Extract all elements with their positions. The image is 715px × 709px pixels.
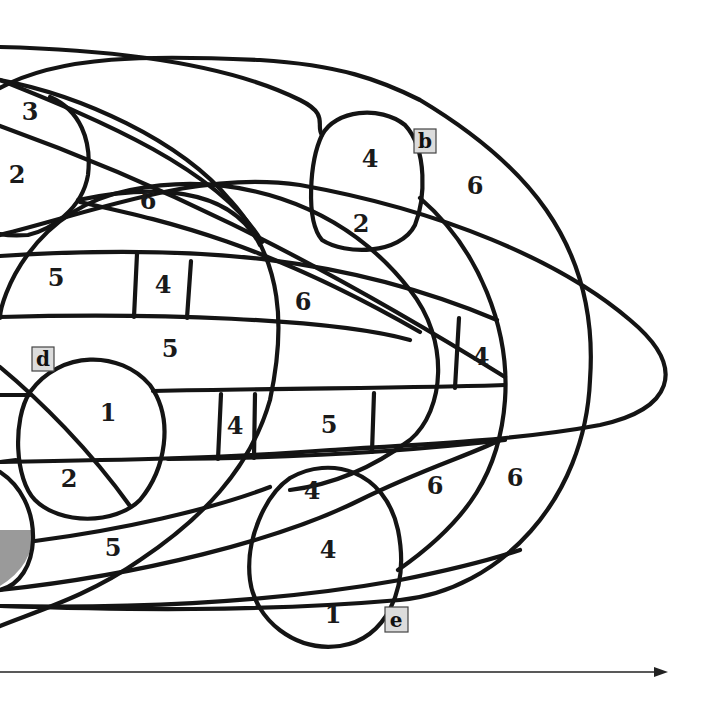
tag-label: d (36, 347, 50, 371)
region-label: 2 (353, 209, 370, 238)
region-label: 1 (100, 398, 117, 427)
region-label: 5 (321, 410, 338, 439)
region-label: 5 (162, 334, 179, 363)
divider-band-4b (254, 394, 255, 458)
region-label: 6 (507, 463, 524, 492)
region-label: 6 (295, 287, 312, 316)
region-label: 6 (427, 471, 444, 500)
region-label: 4 (362, 144, 379, 173)
line-6-inner (78, 192, 260, 245)
divider-5-4-a (134, 254, 137, 317)
region-diagram: 3 2 6 4 2 6 5 4 6 5 4 1 4 5 2 4 6 6 5 4 … (0, 0, 715, 709)
divider-5-4-b (187, 261, 191, 318)
region-label: 4 (304, 476, 321, 505)
region-label: 4 (227, 411, 244, 440)
divider-band-4a (218, 394, 221, 459)
region-label: 6 (140, 186, 157, 215)
line-d-left (0, 460, 16, 462)
tag-b: b (414, 129, 436, 153)
region-label: 2 (61, 464, 78, 493)
region-label: 1 (325, 600, 342, 629)
tag-e: e (385, 607, 408, 632)
region-label: 6 (467, 171, 484, 200)
region-label: 5 (48, 263, 65, 292)
divider-band-5 (372, 393, 374, 452)
region-label: 5 (105, 533, 122, 562)
line-band-top (0, 385, 505, 395)
tag-label: b (418, 129, 432, 153)
region-label: 4 (155, 270, 172, 299)
region-label: 3 (22, 97, 39, 126)
line-5-upper (35, 487, 270, 541)
arrowhead-icon (654, 667, 668, 677)
line-mid-band (0, 316, 410, 340)
region-label: 2 (9, 160, 26, 189)
region-label: 4 (320, 535, 337, 564)
tag-label: e (390, 608, 403, 632)
region-label: 4 (473, 342, 490, 371)
circle-d (18, 360, 164, 519)
tag-d: d (32, 347, 54, 371)
divider-4-right (455, 318, 459, 388)
